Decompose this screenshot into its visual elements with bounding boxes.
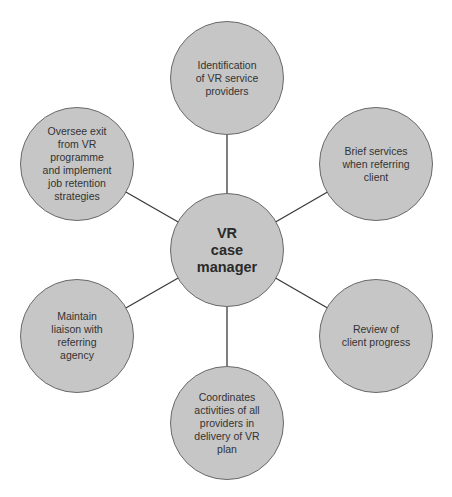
node-label: Oversee exit from VR programme and imple…: [43, 125, 112, 203]
hub-label: VR case manager: [197, 225, 257, 276]
hub-node-vr-case-manager: VR case manager: [170, 193, 284, 307]
node-upper-right: Brief services when referring client: [319, 107, 433, 221]
node-lower-right: Review of client progress: [319, 279, 433, 393]
node-top: Identification of VR service providers: [170, 21, 284, 135]
node-label: Review of client progress: [342, 323, 410, 349]
diagram-canvas: Identification of VR service providers B…: [0, 0, 452, 497]
node-label: Coordinates activities of all providers …: [194, 391, 259, 456]
node-label: Brief services when referring client: [342, 145, 409, 184]
node-label: Identification of VR service providers: [196, 59, 258, 98]
node-label: Maintain liaison with referring agency: [51, 310, 102, 362]
node-bottom: Coordinates activities of all providers …: [170, 366, 284, 480]
node-lower-left: Maintain liaison with referring agency: [20, 279, 134, 393]
node-upper-left: Oversee exit from VR programme and imple…: [20, 107, 134, 221]
